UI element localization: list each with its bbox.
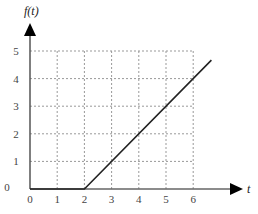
y-tick-label: 2 bbox=[13, 128, 19, 140]
y-tick-label: 1 bbox=[13, 155, 19, 167]
x-axis-label: t bbox=[247, 182, 251, 196]
x-tick-label: 4 bbox=[136, 193, 142, 205]
y-tick-label: 0 bbox=[4, 181, 10, 193]
chart-canvas: 0123456012345 f(t) t bbox=[0, 0, 258, 214]
y-tick-label: 3 bbox=[13, 100, 19, 112]
x-tick-label: 6 bbox=[190, 193, 196, 205]
x-tick-label: 1 bbox=[54, 193, 60, 205]
x-tick-label: 2 bbox=[82, 193, 88, 205]
x-axis-arrow-icon bbox=[230, 183, 243, 195]
x-tick-label: 5 bbox=[163, 193, 169, 205]
x-tick-label: 0 bbox=[27, 193, 33, 205]
x-tick-label: 3 bbox=[109, 193, 115, 205]
tick-labels: 0123456012345 bbox=[4, 45, 196, 205]
y-axis-label: f(t) bbox=[24, 4, 39, 18]
y-tick-label: 4 bbox=[13, 73, 19, 85]
y-tick-label: 5 bbox=[13, 45, 19, 57]
y-axis-arrow-icon bbox=[24, 23, 36, 36]
grid-lines bbox=[30, 51, 193, 189]
